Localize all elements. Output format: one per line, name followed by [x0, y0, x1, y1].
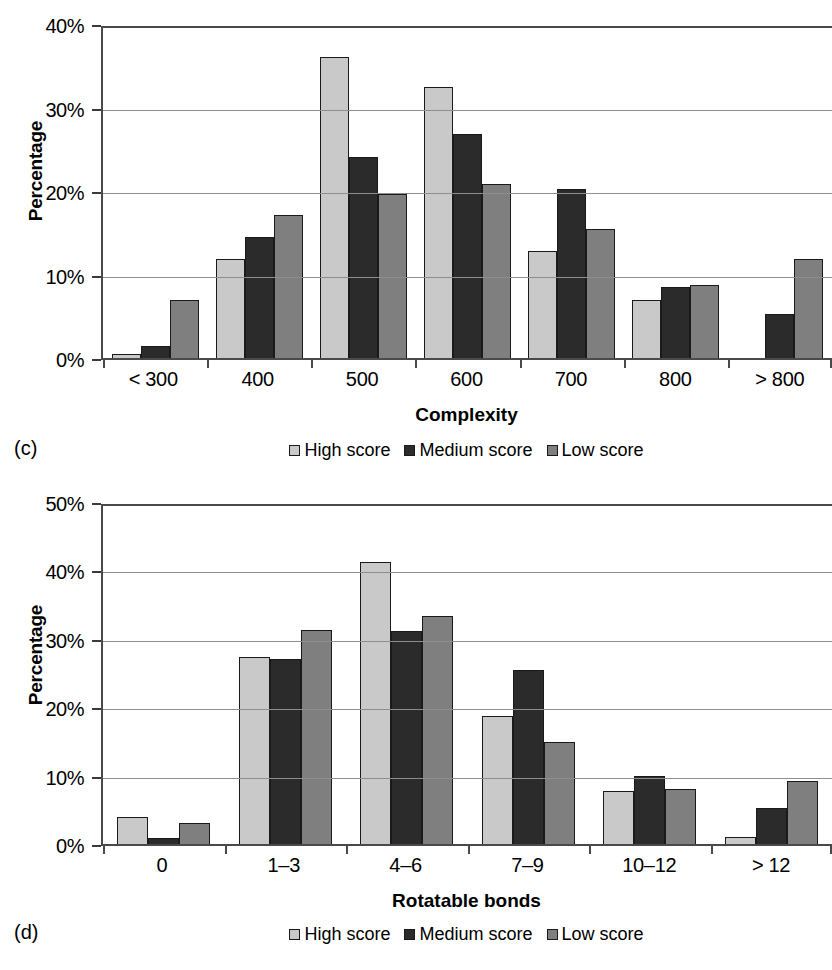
y-tick-label: 20%	[45, 699, 84, 719]
gridline	[103, 277, 832, 278]
gridline	[103, 778, 832, 779]
x-tick-label: < 300	[101, 368, 205, 391]
bar	[661, 287, 690, 358]
x-tick-label: 7–9	[466, 854, 588, 877]
chart-panel-c: Percentage 0%10%20%30%40% < 300400500600…	[0, 0, 832, 480]
gridline	[103, 572, 832, 573]
bar-group	[520, 26, 624, 358]
bar	[270, 659, 301, 844]
gridline	[103, 641, 832, 642]
bar	[422, 616, 453, 844]
y-tick-mark	[92, 845, 101, 847]
x-tick-label: 10–12	[588, 854, 710, 877]
gridline	[103, 26, 832, 28]
y-tick-mark	[92, 109, 101, 111]
bar-group	[624, 26, 728, 358]
bar	[725, 837, 756, 844]
legend-item-high: High score	[289, 924, 390, 945]
x-tick-mark	[589, 846, 591, 854]
gridline	[103, 193, 832, 194]
y-tick-label: 50%	[45, 494, 84, 514]
legend-swatch-icon	[289, 929, 300, 940]
bar-series-container-c	[103, 26, 832, 358]
gridline	[103, 709, 832, 710]
bar	[274, 215, 303, 358]
x-tick-label: 4–6	[345, 854, 467, 877]
gridline	[103, 110, 832, 111]
legend-label: High score	[304, 440, 390, 461]
bar-series-container-d	[103, 504, 832, 844]
bar-group	[589, 504, 711, 844]
bar	[665, 789, 696, 844]
x-axis-labels-c: < 300400500600700800> 800	[101, 368, 832, 391]
x-tick-mark	[207, 360, 209, 368]
legend-item-low: Low score	[547, 924, 644, 945]
bar	[632, 300, 661, 358]
x-axis-title-d: Rotatable bonds	[101, 890, 832, 912]
x-tick-mark	[415, 360, 417, 368]
x-tick-mark	[346, 846, 348, 854]
y-tick-mark	[92, 777, 101, 779]
x-tick-mark	[728, 360, 730, 368]
legend-label: Low score	[562, 440, 644, 461]
gridline	[103, 504, 832, 506]
bar	[245, 237, 274, 358]
x-tick-label: 700	[519, 368, 623, 391]
y-tick-mark	[92, 359, 101, 361]
bar-group	[225, 504, 347, 844]
bar	[360, 562, 391, 844]
y-tick-mark	[92, 571, 101, 573]
x-tick-mark	[624, 360, 626, 368]
bar	[349, 157, 378, 358]
y-tick-label: 20%	[45, 183, 84, 203]
plot-area-c: 0%10%20%30%40%	[30, 26, 832, 360]
bar-group	[415, 26, 519, 358]
x-tick-mark	[225, 846, 227, 854]
plot-canvas-d	[101, 504, 832, 846]
bar	[634, 776, 665, 844]
y-axis-ticks-d: 0%10%20%30%40%50%	[30, 504, 92, 846]
bar	[453, 134, 482, 358]
bar	[141, 346, 170, 358]
legend-swatch-icon	[289, 445, 300, 456]
bar	[482, 716, 513, 844]
y-tick-label: 40%	[45, 562, 84, 582]
legend-swatch-icon	[404, 445, 415, 456]
bar	[586, 229, 615, 358]
x-tick-mark	[520, 360, 522, 368]
legend-label: Medium score	[419, 440, 532, 461]
panel-label-c: (c)	[14, 437, 37, 460]
y-tick-label: 30%	[45, 100, 84, 120]
legend-item-low: Low score	[547, 440, 644, 461]
x-tick-label: 600	[414, 368, 518, 391]
legend-c: High scoreMedium scoreLow score	[101, 440, 832, 461]
x-tick-label: > 12	[710, 854, 832, 877]
figure-page: Percentage 0%10%20%30%40% < 300400500600…	[0, 0, 832, 970]
x-tick-mark	[468, 846, 470, 854]
legend-d: High scoreMedium scoreLow score	[101, 924, 832, 945]
bar	[557, 189, 586, 359]
legend-swatch-icon	[404, 929, 415, 940]
bar	[756, 808, 787, 844]
x-tick-label: 0	[101, 854, 223, 877]
chart-panel-d: Percentage 0%10%20%30%40%50% 01–34–67–91…	[0, 480, 832, 970]
y-tick-mark	[92, 503, 101, 505]
legend-item-medium: Medium score	[404, 924, 532, 945]
bar	[424, 87, 453, 358]
bar	[179, 823, 210, 844]
legend-label: Low score	[562, 924, 644, 945]
legend-swatch-icon	[547, 445, 558, 456]
bar-group	[711, 504, 832, 844]
bar	[794, 259, 823, 358]
bar	[528, 251, 557, 358]
y-tick-mark	[92, 708, 101, 710]
x-axis-title-c: Complexity	[101, 404, 832, 426]
legend-label: High score	[304, 924, 390, 945]
y-tick-label: 30%	[45, 631, 84, 651]
plot-area-d: 0%10%20%30%40%50%	[30, 504, 832, 846]
x-tick-label: 1–3	[223, 854, 345, 877]
bar-group	[103, 504, 225, 844]
legend-label: Medium score	[419, 924, 532, 945]
bar	[482, 184, 511, 359]
plot-canvas-c	[101, 26, 832, 360]
